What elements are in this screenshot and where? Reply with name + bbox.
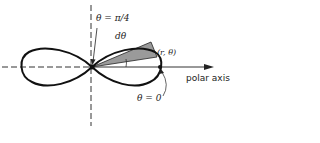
pi4-pointer xyxy=(93,28,97,62)
point-r-theta xyxy=(158,65,162,69)
label-dtheta: dθ xyxy=(115,32,126,41)
label-theta-zero: θ = 0 xyxy=(137,94,161,103)
area-wedge xyxy=(92,42,157,67)
label-polar-axis: polar axis xyxy=(186,74,230,83)
theta-zero-pointer xyxy=(162,72,166,96)
theta-angle-arc xyxy=(126,59,127,67)
label-theta-pi4: θ = π/4 xyxy=(96,14,129,23)
polar-axis-arrow-icon xyxy=(204,64,214,70)
origin-point xyxy=(90,65,95,70)
label-point: (r, θ) xyxy=(157,49,176,57)
